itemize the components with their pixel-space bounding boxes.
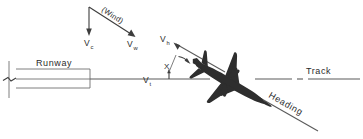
heading-velocity-subscript: h (167, 40, 170, 46)
aircraft-silhouette (178, 36, 287, 132)
crosswind-velocity-symbol: V (84, 38, 90, 48)
drift-angle-group: X (164, 55, 191, 72)
wind-velocity-subscript: w (133, 45, 139, 51)
heading-arrowhead (174, 43, 181, 50)
crosswind-arrowhead (86, 29, 92, 37)
crosswind-velocity-subscript: c (91, 44, 94, 50)
crosswind-diagram: (Wind) V c V w Runway (0, 0, 363, 139)
wind-velocity-symbol: V (127, 39, 133, 49)
runway-break-icon (3, 78, 16, 82)
track-velocity-subscript: t (150, 81, 152, 87)
track-label: Track (306, 66, 331, 76)
wind-vector-group: (Wind) V c V w (84, 5, 139, 50)
wind-arrowhead (128, 30, 136, 37)
track-velocity-symbol: V (143, 75, 149, 85)
drift-angle-label: X (164, 62, 170, 71)
drift-angle-reference-leg (169, 55, 176, 72)
heading-velocity-symbol: V (160, 34, 166, 44)
diagram-canvas: (Wind) V c V w Runway (0, 0, 363, 139)
runway-label: Runway (36, 58, 72, 68)
runway-group: Runway (3, 58, 90, 98)
